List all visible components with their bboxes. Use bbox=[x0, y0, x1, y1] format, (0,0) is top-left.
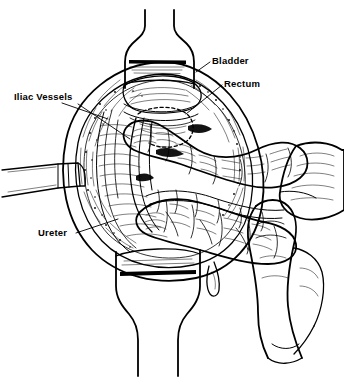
figure-background bbox=[0, 0, 344, 384]
label-ureter: Ureter bbox=[38, 227, 67, 238]
illustration-canvas: Bladder Rectum Iliac Vessels Ureter bbox=[0, 0, 344, 384]
label-bladder: Bladder bbox=[212, 55, 249, 66]
medical-illustration-figure: Bladder Rectum Iliac Vessels Ureter bbox=[0, 0, 344, 384]
label-iliac-vessels: Iliac Vessels bbox=[14, 91, 73, 102]
label-rectum: Rectum bbox=[224, 78, 260, 89]
